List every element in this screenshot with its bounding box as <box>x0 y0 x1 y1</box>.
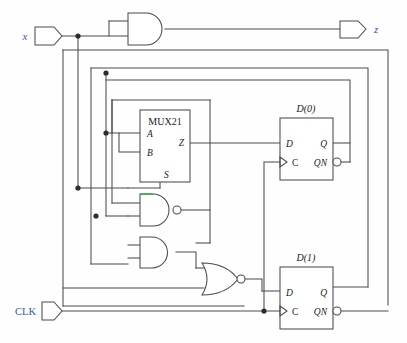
junction-mux-a <box>103 130 108 135</box>
wire-nor-out-to-d1 <box>244 279 262 291</box>
dff1-block[interactable]: D(1) D C Q QN <box>280 252 341 329</box>
x-input-port-shape[interactable] <box>35 27 62 45</box>
z-output-port[interactable]: z <box>340 21 379 38</box>
x-input-label: x <box>22 30 28 42</box>
mux21-pin-s-label: S <box>164 170 169 180</box>
clk-input-label: CLK <box>15 306 36 317</box>
junction-clk-fanout <box>261 308 266 313</box>
junction-x-fanout <box>75 33 80 38</box>
wire-mux-b-in <box>119 133 140 152</box>
dff0-pin-c-label: C <box>292 158 298 168</box>
mux21-pin-z-label: Z <box>179 138 185 148</box>
dff1-pin-q-label: Q <box>320 288 327 298</box>
z-output-port-shape[interactable] <box>340 21 366 38</box>
junction-bus-upper <box>103 70 108 75</box>
junction-nand-input <box>93 213 98 218</box>
wire-clk-to-d0 <box>264 162 280 311</box>
nand-gate-mid-body[interactable] <box>140 194 169 226</box>
clk-input-port-shape[interactable] <box>42 302 62 320</box>
dff1-qn-invert-bubble <box>333 307 341 315</box>
wire-and-low-out <box>176 252 196 268</box>
nor-gate-bottom-body[interactable] <box>202 263 238 295</box>
dff0-block[interactable]: D(0) D C Q QN <box>280 103 341 180</box>
nand-gate-mid[interactable] <box>140 194 181 226</box>
x-input-port[interactable]: x <box>22 27 62 45</box>
mux21-pin-b-label: B <box>147 148 153 158</box>
dff1-pin-qn-label: QN <box>314 307 328 317</box>
nand-gate-mid-invert-bubble <box>173 206 181 214</box>
dff1-pin-c-label: C <box>292 307 298 317</box>
circuit-diagram-svg: x CLK z MUX21 A B S Z D(0) <box>0 0 407 343</box>
dff0-qn-invert-bubble <box>333 158 341 166</box>
and-gate-lower[interactable] <box>140 237 167 268</box>
mux21-block-label: MUX21 <box>148 116 181 127</box>
dff1-pin-d-label: D <box>285 288 293 298</box>
junction-mux-s-bus <box>75 185 80 190</box>
dff1-block-body[interactable] <box>280 267 333 329</box>
schematic-canvas: x CLK z MUX21 A B S Z D(0) <box>0 0 407 343</box>
dff0-pin-q-label: Q <box>320 139 327 149</box>
mux21-block[interactable]: MUX21 A B S Z <box>140 110 190 182</box>
mux21-pin-a-label: A <box>146 129 153 139</box>
and-gate-lower-body[interactable] <box>140 237 167 268</box>
dff0-pin-d-label: D <box>285 139 293 149</box>
and-gate-top[interactable] <box>128 13 162 45</box>
dff1-block-label: D(1) <box>296 252 317 264</box>
clk-input-port[interactable]: CLK <box>15 302 62 320</box>
dff0-block-body[interactable] <box>280 118 333 180</box>
nor-gate-bottom-invert-bubble <box>237 275 245 283</box>
dff0-block-label: D(0) <box>296 103 317 115</box>
nor-gate-bottom[interactable] <box>202 263 245 295</box>
dff0-pin-qn-label: QN <box>314 158 328 168</box>
z-output-label: z <box>373 23 379 35</box>
and-gate-top-body[interactable] <box>128 13 162 45</box>
